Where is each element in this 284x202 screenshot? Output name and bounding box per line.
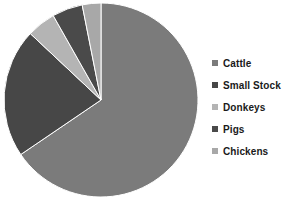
chart-legend: Cattle Small Stock Donkeys Pigs Chickens	[212, 52, 284, 162]
legend-swatch-icon-cattle	[212, 60, 218, 66]
legend-item-donkeys[interactable]: Donkeys	[212, 96, 284, 118]
legend-label-small-stock: Small Stock	[223, 80, 281, 91]
legend-label-chickens: Chickens	[223, 146, 268, 157]
legend-swatch-icon-small-stock	[212, 82, 218, 88]
legend-item-cattle[interactable]: Cattle	[212, 52, 284, 74]
legend-label-pigs: Pigs	[223, 124, 245, 135]
legend-swatch-icon-pigs	[212, 126, 218, 132]
pie-svg	[0, 0, 205, 202]
legend-label-donkeys: Donkeys	[223, 102, 265, 113]
pie-slice-group	[4, 3, 198, 197]
legend-label-cattle: Cattle	[223, 58, 251, 69]
pie-chart-figure: Cattle Small Stock Donkeys Pigs Chickens	[0, 0, 284, 202]
legend-item-small-stock[interactable]: Small Stock	[212, 74, 284, 96]
legend-item-pigs[interactable]: Pigs	[212, 118, 284, 140]
pie-plot-area	[0, 0, 205, 202]
legend-swatch-icon-donkeys	[212, 104, 218, 110]
legend-item-chickens[interactable]: Chickens	[212, 140, 284, 162]
legend-swatch-icon-chickens	[212, 148, 218, 154]
